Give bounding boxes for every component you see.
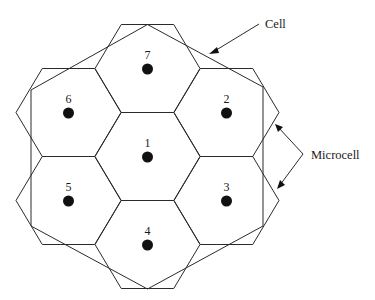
- cell-arrow: [213, 24, 259, 52]
- microcell-number: 1: [145, 136, 151, 150]
- diagram-canvas: 1234567 Cell Microcell: [0, 0, 375, 300]
- base-station-dot-icon: [63, 196, 74, 207]
- base-station-dot-icon: [142, 240, 153, 251]
- base-station-dot-icon: [142, 152, 153, 163]
- cell-arrowhead-icon: [209, 47, 219, 54]
- microcell-number: 3: [224, 180, 230, 194]
- microcell-number: 4: [145, 224, 151, 238]
- microcell-number: 6: [66, 92, 72, 106]
- base-station-dot-icon: [221, 108, 232, 119]
- base-station-dot-icon: [63, 108, 74, 119]
- microcell-number: 5: [66, 180, 72, 194]
- microcell-number: 7: [145, 48, 151, 62]
- base-station-dot-icon: [142, 64, 153, 75]
- microcell-number: 2: [224, 92, 230, 106]
- base-station-dot-icon: [221, 196, 232, 207]
- microcell-arrow-lower: [280, 154, 303, 185]
- microcell-label: Microcell: [311, 148, 360, 162]
- microcell-number-labels: 1234567: [66, 48, 230, 238]
- cell-label: Cell: [265, 17, 286, 31]
- microcell-arrow-upper: [278, 127, 303, 154]
- microcell-arrowhead-lower-icon: [277, 180, 285, 189]
- cell-microcell-diagram: 1234567 Cell Microcell: [0, 0, 375, 300]
